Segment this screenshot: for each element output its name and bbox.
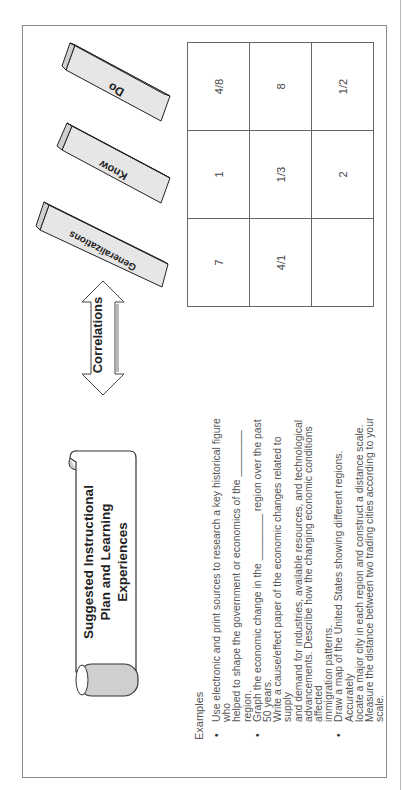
title-line-1: Suggested Instructional: [80, 462, 97, 662]
list-item: Use electronic and print sources to rese…: [212, 410, 253, 740]
scroll-title: Suggested Instructional Plan and Learnin…: [80, 462, 131, 662]
grid-cell: 1/3: [250, 131, 312, 219]
bullet-line: Use electronic and print sources to rese…: [212, 410, 232, 722]
grid-cell: 1: [188, 131, 250, 219]
grid-cell: 8: [250, 43, 312, 131]
correlation-grid: 7 1 4/8 4/1 1/3 8 2 1/2: [187, 42, 374, 307]
list-item: Graph the economic change in the _______…: [253, 410, 335, 740]
bullet-line: Write a cause/effect paper of the econom…: [273, 410, 293, 722]
grid-cell: 4/8: [188, 43, 250, 131]
grid-cell: 7: [188, 219, 250, 307]
bullet-line: helped to shape the government or econom…: [232, 410, 252, 722]
bullet-line: Draw a map of the United States showing …: [334, 410, 354, 722]
title-line-2: Plan and Learning Experiences: [97, 462, 131, 662]
correlations-label: Correlations: [90, 285, 105, 385]
grid-row: 4/1 1/3 8: [250, 43, 312, 307]
grid-cell: 2: [312, 131, 374, 219]
grid-row: 7 1 4/8: [188, 43, 250, 307]
bullet-line: Measure the distance between two trading…: [365, 410, 385, 722]
grid-cell: [312, 219, 374, 307]
bullet-line: advancements. Describe how the changing …: [304, 410, 324, 722]
grid-row: 2 1/2: [312, 43, 374, 307]
bullet-line: Graph the economic change in the _______…: [253, 410, 273, 722]
grid-cell: 1/2: [312, 43, 374, 131]
grid-cell: 4/1: [250, 219, 312, 307]
examples-list: Use electronic and print sources to rese…: [212, 410, 385, 740]
list-item: Draw a map of the United States showing …: [334, 410, 385, 740]
examples-label: Examples: [193, 692, 205, 740]
rotated-page: Suggested Instructional Plan and Learnin…: [0, 0, 402, 790]
